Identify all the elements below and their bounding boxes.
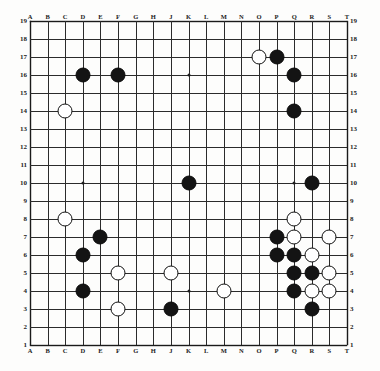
black-stone-R3[interactable] [304,302,319,317]
column-label-bottom-T: T [341,348,353,355]
white-stone-M4[interactable] [216,284,231,299]
black-stone-P17[interactable] [269,50,284,65]
column-label-top-Q: Q [288,14,300,21]
white-stone-R4[interactable] [304,284,319,299]
black-stone-K10[interactable] [181,176,196,191]
row-label-left-5: 5 [13,270,27,277]
row-label-right-7: 7 [350,234,364,241]
row-label-right-8: 8 [350,216,364,223]
star-point-D10 [81,182,84,185]
black-stone-R5[interactable] [304,266,319,281]
grid-line-col-O [259,21,260,345]
column-label-top-N: N [235,14,247,21]
black-stone-Q14[interactable] [287,104,302,119]
row-label-left-18: 18 [13,36,27,43]
row-label-left-12: 12 [13,144,27,151]
black-stone-Q6[interactable] [287,248,302,263]
black-stone-J3[interactable] [163,302,178,317]
row-label-right-11: 11 [350,162,364,169]
row-label-right-5: 5 [350,270,364,277]
white-stone-S4[interactable] [322,284,337,299]
black-stone-P6[interactable] [269,248,284,263]
column-label-bottom-D: D [77,348,89,355]
column-label-bottom-F: F [112,348,124,355]
row-label-right-9: 9 [350,198,364,205]
row-label-left-17: 17 [13,54,27,61]
column-label-bottom-N: N [235,348,247,355]
white-stone-Q8[interactable] [287,212,302,227]
column-label-top-J: J [165,14,177,21]
row-label-right-15: 15 [350,90,364,97]
white-stone-R6[interactable] [304,248,319,263]
black-stone-Q4[interactable] [287,284,302,299]
black-stone-D4[interactable] [75,284,90,299]
grid-line-row-9 [30,201,347,202]
column-label-bottom-E: E [94,348,106,355]
row-label-left-7: 7 [13,234,27,241]
black-stone-F16[interactable] [111,68,126,83]
column-label-top-R: R [306,14,318,21]
grid-line-row-2 [30,327,347,328]
row-label-left-13: 13 [13,126,27,133]
black-stone-R10[interactable] [304,176,319,191]
grid-line-col-L [206,21,207,345]
grid-line-col-P [277,21,278,345]
black-stone-Q16[interactable] [287,68,302,83]
column-label-bottom-C: C [59,348,71,355]
column-label-bottom-H: H [147,348,159,355]
white-stone-F3[interactable] [111,302,126,317]
column-label-bottom-J: J [165,348,177,355]
row-label-left-14: 14 [13,108,27,115]
white-stone-C8[interactable] [58,212,73,227]
black-stone-Q5[interactable] [287,266,302,281]
row-label-left-4: 4 [13,288,27,295]
column-label-bottom-K: K [183,348,195,355]
row-label-right-1: 1 [350,342,364,349]
star-point-K4 [187,290,190,293]
column-label-bottom-O: O [253,348,265,355]
grid-line-row-1 [30,345,347,346]
column-label-bottom-M: M [218,348,230,355]
column-label-bottom-L: L [200,348,212,355]
grid-line-col-N [241,21,242,345]
column-label-top-E: E [94,14,106,21]
white-stone-O17[interactable] [251,50,266,65]
column-label-bottom-A: A [24,348,36,355]
row-label-left-8: 8 [13,216,27,223]
row-label-left-15: 15 [13,90,27,97]
white-stone-C14[interactable] [58,104,73,119]
black-stone-E7[interactable] [93,230,108,245]
row-label-right-6: 6 [350,252,364,259]
row-label-left-10: 10 [13,180,27,187]
column-label-top-F: F [112,14,124,21]
row-label-right-4: 4 [350,288,364,295]
black-stone-D6[interactable] [75,248,90,263]
white-stone-S5[interactable] [322,266,337,281]
black-stone-P7[interactable] [269,230,284,245]
white-stone-J5[interactable] [163,266,178,281]
column-label-bottom-P: P [271,348,283,355]
star-point-Q10 [293,182,296,185]
column-label-top-G: G [130,14,142,21]
row-label-right-16: 16 [350,72,364,79]
column-label-top-H: H [147,14,159,21]
white-stone-Q7[interactable] [287,230,302,245]
white-stone-F5[interactable] [111,266,126,281]
black-stone-D16[interactable] [75,68,90,83]
row-label-right-10: 10 [350,180,364,187]
row-label-left-1: 1 [13,342,27,349]
white-stone-S7[interactable] [322,230,337,245]
go-board-diagram: ABCDEFGHJKLMNOPQRST ABCDEFGHJKLMNOPQRST … [0,0,380,371]
board-grid[interactable] [30,21,347,345]
column-label-bottom-S: S [323,348,335,355]
row-label-right-13: 13 [350,126,364,133]
row-label-right-14: 14 [350,108,364,115]
column-label-top-D: D [77,14,89,21]
grid-line-col-T [347,21,348,345]
column-label-bottom-R: R [306,348,318,355]
column-label-bottom-Q: Q [288,348,300,355]
column-label-bottom-G: G [130,348,142,355]
row-label-left-3: 3 [13,306,27,313]
row-label-left-11: 11 [13,162,27,169]
row-label-left-16: 16 [13,72,27,79]
